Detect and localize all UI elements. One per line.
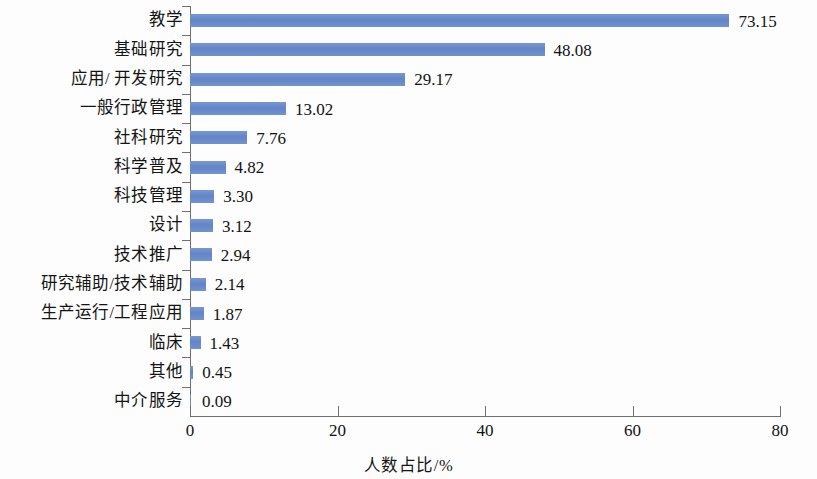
y-axis-tick <box>182 152 190 153</box>
y-axis-tick <box>182 211 190 212</box>
bar-chart: 教学基础研究应用/ 开发研究一般行政管理社科研究科学普及科技管理设计技术推广研究… <box>0 0 817 479</box>
x-axis-title: 人数占比/% <box>0 452 817 476</box>
bar-value-label: 1.43 <box>210 335 240 352</box>
bar-value-label: 2.14 <box>215 276 245 293</box>
category-label: 教学 <box>0 6 186 35</box>
category-label: 设计 <box>0 211 186 240</box>
category-label-text: 设计 <box>149 217 186 234</box>
bar <box>190 366 193 379</box>
category-label: 技术推广 <box>0 240 186 269</box>
category-label-text: 生产运行/工程应用 <box>41 305 186 322</box>
bar <box>190 219 213 232</box>
y-axis-tick <box>182 387 190 388</box>
category-label: 其他 <box>0 357 186 386</box>
category-label-text: 一般行政管理 <box>80 100 186 117</box>
x-axis-tick-label: 20 <box>329 422 346 439</box>
bar-value-label: 4.82 <box>235 159 265 176</box>
bar <box>190 307 204 320</box>
x-axis-tick <box>485 406 486 416</box>
bar-value-label: 29.17 <box>414 71 452 88</box>
x-axis-tick-label: 80 <box>772 422 789 439</box>
category-label: 社科研究 <box>0 123 186 152</box>
y-axis-tick <box>182 328 190 329</box>
bar-value-label: 7.76 <box>256 130 286 147</box>
y-axis-tick <box>182 182 190 183</box>
plot-area: 73.1548.0829.1713.027.764.823.303.122.94… <box>190 6 780 416</box>
category-label-text: 临床 <box>149 335 186 352</box>
x-axis-tick-label: 0 <box>186 422 195 439</box>
category-label-text: 社科研究 <box>114 130 186 147</box>
bar-value-label: 13.02 <box>295 101 333 118</box>
x-axis-tick <box>780 406 781 416</box>
category-label: 科技管理 <box>0 182 186 211</box>
bar <box>190 190 214 203</box>
y-axis-tick <box>182 35 190 36</box>
y-axis-tick <box>182 65 190 66</box>
category-label-text: 科技管理 <box>114 188 186 205</box>
y-axis-tick <box>182 123 190 124</box>
x-axis-tick <box>633 406 634 416</box>
bar-value-label: 3.30 <box>223 188 253 205</box>
bar-value-label: 2.94 <box>221 247 251 264</box>
category-label: 中介服务 <box>0 387 186 416</box>
bar-value-label: 0.09 <box>202 393 232 410</box>
category-label: 临床 <box>0 328 186 357</box>
bar <box>190 278 206 291</box>
bar <box>190 131 247 144</box>
x-axis-tick-label: 60 <box>624 422 641 439</box>
x-axis-tick <box>338 406 339 416</box>
bar-value-label: 1.87 <box>213 306 243 323</box>
bar <box>190 43 545 56</box>
category-label-text: 中介服务 <box>114 393 186 410</box>
category-label-text: 研究辅助/技术辅助 <box>41 276 186 293</box>
category-axis-labels: 教学基础研究应用/ 开发研究一般行政管理社科研究科学普及科技管理设计技术推广研究… <box>0 6 186 416</box>
y-axis-tick <box>182 270 190 271</box>
category-label-text: 其他 <box>149 364 186 381</box>
category-label: 基础研究 <box>0 35 186 64</box>
category-label-text: 基础研究 <box>114 42 186 59</box>
bar-value-label: 73.15 <box>738 13 776 30</box>
y-axis-tick <box>182 299 190 300</box>
bar-value-label: 0.45 <box>202 364 232 381</box>
bar <box>190 14 729 27</box>
category-label: 应用/ 开发研究 <box>0 65 186 94</box>
y-axis-tick <box>182 6 190 7</box>
category-label-text: 技术推广 <box>114 247 186 264</box>
bar <box>190 161 226 174</box>
y-axis-tick <box>182 357 190 358</box>
x-axis-line <box>190 416 781 417</box>
category-label: 研究辅助/技术辅助 <box>0 270 186 299</box>
bar <box>190 73 405 86</box>
category-label-text: 应用/ 开发研究 <box>71 71 186 88</box>
category-label: 科学普及 <box>0 152 186 181</box>
category-label-text: 教学 <box>149 12 186 29</box>
x-axis-tick-label: 40 <box>477 422 494 439</box>
bar-value-label: 3.12 <box>222 218 252 235</box>
category-label-text: 科学普及 <box>114 159 186 176</box>
category-label: 一般行政管理 <box>0 94 186 123</box>
y-axis-tick <box>182 240 190 241</box>
bar <box>190 102 286 115</box>
bar <box>190 248 212 261</box>
x-axis-tick <box>190 406 191 416</box>
bar-value-label: 48.08 <box>554 42 592 59</box>
y-axis-tick <box>182 94 190 95</box>
bar <box>190 336 201 349</box>
category-label: 生产运行/工程应用 <box>0 299 186 328</box>
